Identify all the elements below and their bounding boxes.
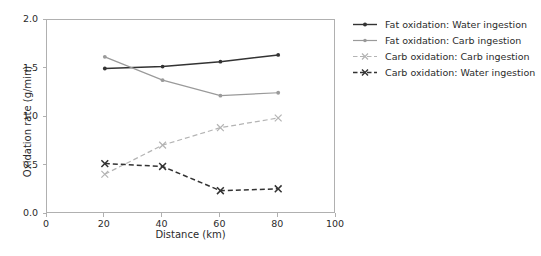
x-axis-tick-label: 80 [271,218,283,229]
x-axis-tick-label: 100 [326,218,344,229]
data-series [101,115,281,178]
data-point-marker [159,163,166,170]
legend-swatch-line-solid-dot [352,34,378,47]
legend-swatch-line-dashed-x [352,50,378,63]
legend-swatch-line-solid-dot [352,18,378,31]
legend-entry-carb-water[interactable]: Carb oxidation: Water ingestion [352,66,535,79]
data-point-marker [103,67,107,71]
y-axis-title: Oxidation rate (g/min) [22,42,33,202]
figure-canvas: 0.0 0.5 1.0 1.5 2.0 0 20 40 60 80 100 [0,0,541,256]
series-line [105,118,278,174]
plot-area [46,19,335,213]
data-point-marker [276,53,280,57]
legend: Fat oxidation: Water ingestion Fat oxida… [352,18,535,79]
y-axis-tick-label: 0.0 [23,207,38,218]
y-axis-tick-label: 2.0 [23,13,38,24]
legend-label: Fat oxidation: Carb ingestion [385,34,521,47]
x-axis-title: Distance (km) [46,229,335,240]
series-line [105,164,278,191]
data-series [101,160,281,194]
legend-entry-carb-carb[interactable]: Carb oxidation: Carb ingestion [352,50,535,63]
legend-entry-fat-water[interactable]: Fat oxidation: Water ingestion [352,18,535,31]
data-point-marker [103,55,107,59]
series-line [105,57,278,96]
series-line [105,55,278,69]
legend-label: Fat oxidation: Water ingestion [385,18,527,31]
data-point-marker [159,142,166,149]
data-point-marker [219,94,223,98]
series-canvas [47,20,336,214]
data-series [103,53,280,70]
data-point-marker [276,91,280,95]
data-point-marker [217,124,224,131]
x-axis-tick-label: 20 [98,218,110,229]
data-point-marker [161,65,165,69]
data-point-marker [161,78,165,82]
x-axis-tick-label: 60 [213,218,225,229]
legend-label: Carb oxidation: Carb ingestion [385,50,530,63]
legend-entry-fat-carb[interactable]: Fat oxidation: Carb ingestion [352,34,535,47]
data-point-marker [219,60,223,64]
data-point-marker [275,115,282,122]
x-axis-tick-label: 0 [43,218,49,229]
legend-swatch-line-dashed-x [352,66,378,79]
x-axis-tick-label: 40 [156,218,168,229]
data-point-marker [101,171,108,178]
data-series [103,55,280,98]
legend-label: Carb oxidation: Water ingestion [385,66,535,79]
